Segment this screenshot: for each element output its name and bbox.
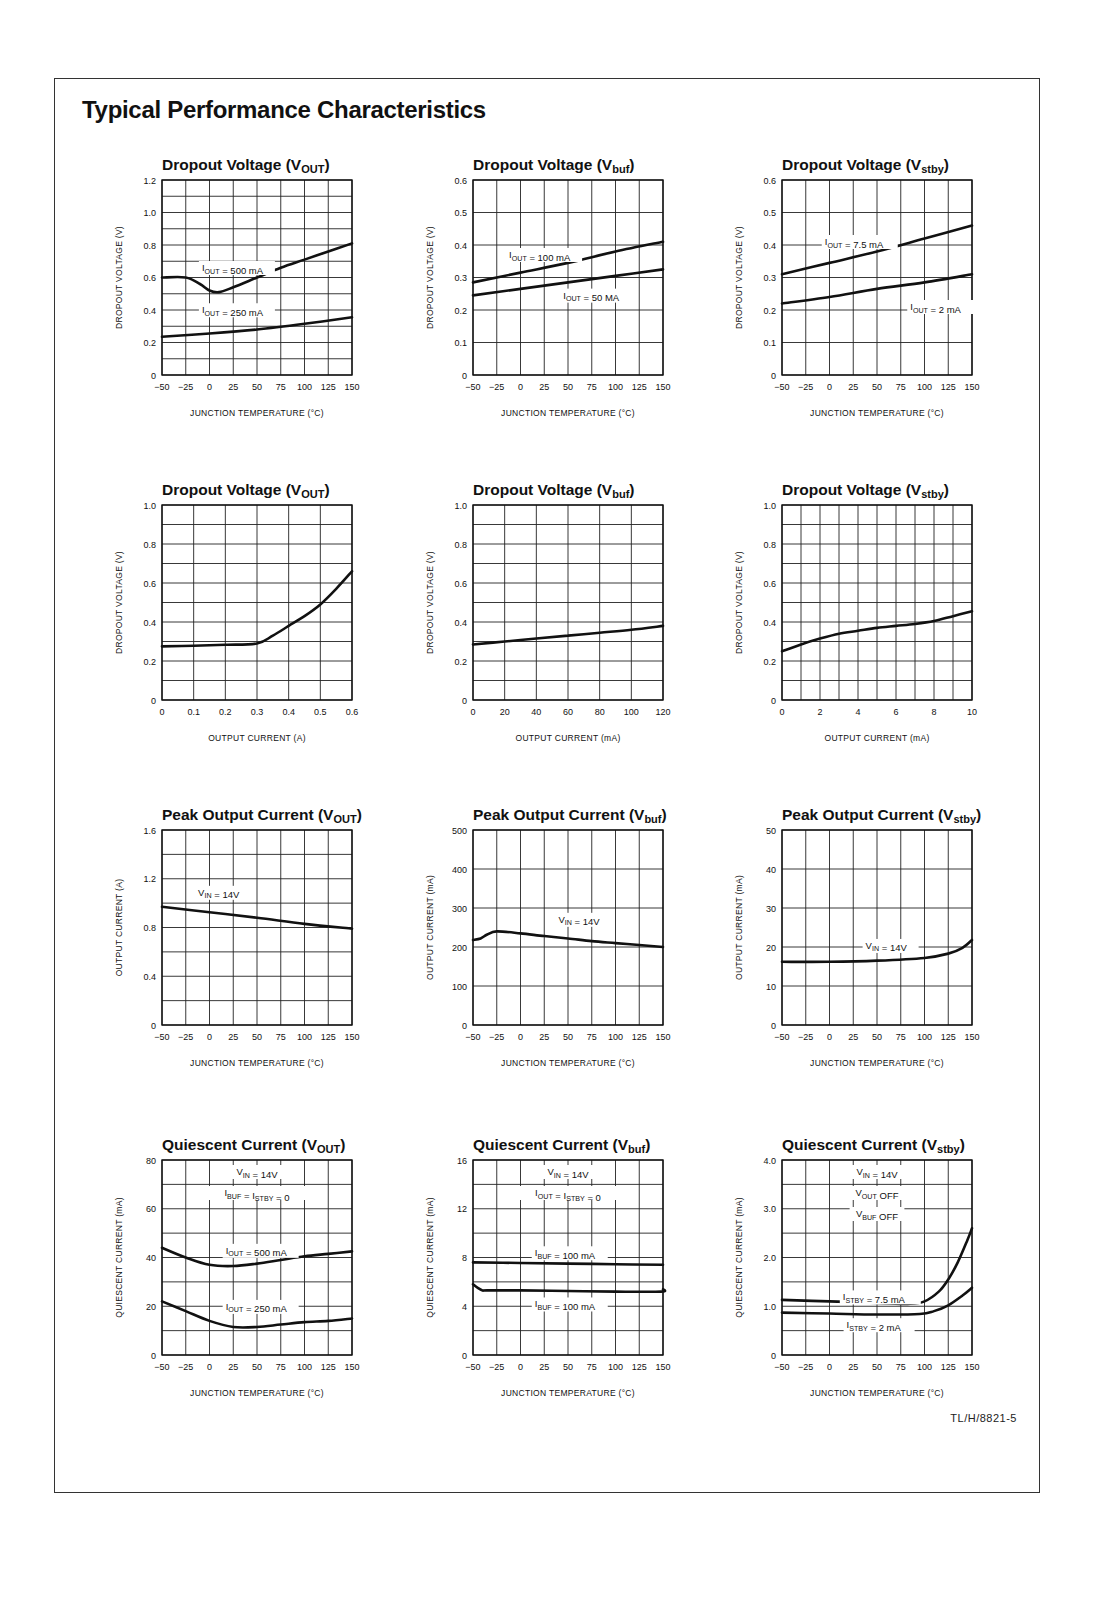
- svg-text:−50: −50: [774, 1362, 789, 1372]
- svg-text:0: 0: [462, 371, 467, 381]
- svg-text:JUNCTION TEMPERATURE (°C): JUNCTION TEMPERATURE (°C): [810, 1058, 944, 1068]
- svg-text:−25: −25: [178, 382, 193, 392]
- svg-text:0: 0: [771, 371, 776, 381]
- svg-text:120: 120: [655, 707, 670, 717]
- svg-text:1.6: 1.6: [143, 826, 156, 836]
- svg-text:OUTPUT CURRENT (A): OUTPUT CURRENT (A): [114, 879, 124, 977]
- svg-text:0: 0: [151, 371, 156, 381]
- svg-text:50: 50: [252, 1362, 262, 1372]
- svg-text:−50: −50: [154, 1362, 169, 1372]
- svg-text:125: 125: [632, 382, 647, 392]
- svg-text:10: 10: [967, 707, 977, 717]
- svg-text:0: 0: [779, 707, 784, 717]
- svg-text:100: 100: [297, 382, 312, 392]
- figure-code: TL/H/8821-5: [950, 1412, 1017, 1424]
- svg-text:100: 100: [297, 1032, 312, 1042]
- svg-text:−50: −50: [465, 1032, 480, 1042]
- svg-text:2: 2: [817, 707, 822, 717]
- svg-text:0.2: 0.2: [454, 657, 467, 667]
- svg-text:0: 0: [151, 1021, 156, 1031]
- svg-text:150: 150: [964, 382, 979, 392]
- svg-text:75: 75: [276, 382, 286, 392]
- svg-text:50: 50: [872, 1032, 882, 1042]
- svg-text:0: 0: [518, 1362, 523, 1372]
- svg-text:0.6: 0.6: [454, 579, 467, 589]
- svg-text:50: 50: [563, 1032, 573, 1042]
- svg-text:0.4: 0.4: [454, 618, 467, 628]
- chart-quiescent-vout: Quiescent Current (VOUT)020406080−50−250…: [110, 1130, 420, 1430]
- svg-text:OUTPUT CURRENT (mA): OUTPUT CURRENT (mA): [515, 733, 620, 743]
- svg-text:−25: −25: [489, 1032, 504, 1042]
- svg-text:0.6: 0.6: [143, 273, 156, 283]
- svg-text:125: 125: [321, 1032, 336, 1042]
- svg-text:−50: −50: [154, 1032, 169, 1042]
- svg-text:125: 125: [321, 1362, 336, 1372]
- chart-plot: 0100200300400500−50−250255075100125150JU…: [421, 800, 731, 1100]
- svg-text:100: 100: [608, 1032, 623, 1042]
- svg-text:JUNCTION TEMPERATURE (°C): JUNCTION TEMPERATURE (°C): [190, 408, 324, 418]
- svg-text:VIN = 14V: VIN = 14V: [856, 1166, 898, 1180]
- chart-plot: 00.40.81.21.6−50−250255075100125150JUNCT…: [110, 800, 420, 1100]
- svg-text:0: 0: [827, 1032, 832, 1042]
- svg-text:0: 0: [771, 1351, 776, 1361]
- chart-dropout-vbuf-temp: Dropout Voltage (Vbuf)00.10.20.30.40.50.…: [421, 150, 731, 450]
- svg-text:100: 100: [917, 382, 932, 392]
- svg-text:0.4: 0.4: [763, 241, 776, 251]
- svg-text:1.2: 1.2: [143, 176, 156, 186]
- chart-plot: 00.20.40.60.81.00246810OUTPUT CURRENT (m…: [730, 475, 1040, 775]
- svg-text:50: 50: [872, 1362, 882, 1372]
- svg-text:25: 25: [228, 382, 238, 392]
- svg-text:0.6: 0.6: [763, 176, 776, 186]
- svg-text:60: 60: [146, 1204, 156, 1214]
- svg-text:−50: −50: [154, 382, 169, 392]
- svg-text:0: 0: [518, 1032, 523, 1042]
- page-title: Typical Performance Characteristics: [82, 96, 486, 124]
- svg-text:0.4: 0.4: [454, 241, 467, 251]
- svg-text:1.0: 1.0: [143, 208, 156, 218]
- svg-text:100: 100: [624, 707, 639, 717]
- svg-text:80: 80: [595, 707, 605, 717]
- chart-plot: 00.10.20.30.40.50.6−50−25025507510012515…: [421, 150, 731, 450]
- svg-text:75: 75: [896, 382, 906, 392]
- svg-text:JUNCTION TEMPERATURE (°C): JUNCTION TEMPERATURE (°C): [810, 1388, 944, 1398]
- svg-text:0.6: 0.6: [454, 176, 467, 186]
- svg-text:QUIESCENT CURRENT (mA): QUIESCENT CURRENT (mA): [114, 1197, 124, 1318]
- svg-text:JUNCTION TEMPERATURE (°C): JUNCTION TEMPERATURE (°C): [190, 1058, 324, 1068]
- svg-text:50: 50: [252, 1032, 262, 1042]
- svg-text:0.8: 0.8: [143, 241, 156, 251]
- svg-text:0.8: 0.8: [763, 540, 776, 550]
- svg-text:60: 60: [563, 707, 573, 717]
- svg-text:−25: −25: [489, 382, 504, 392]
- svg-text:0.4: 0.4: [143, 972, 156, 982]
- svg-text:−25: −25: [178, 1032, 193, 1042]
- svg-text:JUNCTION TEMPERATURE (°C): JUNCTION TEMPERATURE (°C): [190, 1388, 324, 1398]
- svg-text:JUNCTION TEMPERATURE (°C): JUNCTION TEMPERATURE (°C): [501, 1388, 635, 1398]
- svg-text:0.5: 0.5: [314, 707, 327, 717]
- svg-text:OUTPUT CURRENT (mA): OUTPUT CURRENT (mA): [425, 875, 435, 980]
- svg-text:0: 0: [771, 696, 776, 706]
- svg-text:0.4: 0.4: [143, 306, 156, 316]
- svg-text:125: 125: [941, 1032, 956, 1042]
- svg-text:1.0: 1.0: [763, 501, 776, 511]
- svg-text:4: 4: [462, 1302, 467, 1312]
- svg-text:OUTPUT CURRENT (mA): OUTPUT CURRENT (mA): [824, 733, 929, 743]
- chart-plot: 01.02.03.04.0−50−250255075100125150JUNCT…: [730, 1130, 1040, 1430]
- svg-text:0: 0: [462, 1351, 467, 1361]
- svg-text:6: 6: [893, 707, 898, 717]
- svg-text:0.3: 0.3: [763, 273, 776, 283]
- svg-text:150: 150: [655, 1362, 670, 1372]
- svg-text:VIN = 14V: VIN = 14V: [547, 1166, 589, 1180]
- svg-text:100: 100: [297, 1362, 312, 1372]
- svg-text:20: 20: [146, 1302, 156, 1312]
- svg-text:0.4: 0.4: [763, 618, 776, 628]
- svg-text:−50: −50: [774, 382, 789, 392]
- chart-quiescent-vbuf: Quiescent Current (Vbuf)0481216−50−25025…: [421, 1130, 731, 1430]
- chart-dropout-vout-current: Dropout Voltage (VOUT)00.20.40.60.81.000…: [110, 475, 420, 775]
- svg-text:500: 500: [452, 826, 467, 836]
- svg-text:DROPOUT VOLTAGE (V): DROPOUT VOLTAGE (V): [114, 551, 124, 654]
- svg-text:200: 200: [452, 943, 467, 953]
- chart-peak-vstby: Peak Output Current (Vstby)01020304050−5…: [730, 800, 1040, 1100]
- svg-text:25: 25: [228, 1032, 238, 1042]
- svg-text:150: 150: [344, 1362, 359, 1372]
- svg-text:20: 20: [500, 707, 510, 717]
